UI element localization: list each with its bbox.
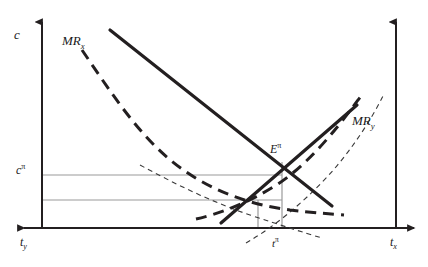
economics-diagram: c cπ ty tx tπ Eπ MRx MRy [0, 0, 428, 267]
t-pi-label: tπ [272, 236, 279, 249]
solid-lines [110, 30, 357, 223]
c-pi-label: cπ [16, 163, 25, 176]
mr-y-base: MR [352, 113, 371, 128]
mr-y-subscript: y [371, 121, 375, 131]
mr-y-solid-line [221, 105, 357, 223]
mr-x-label: MRx [62, 34, 85, 50]
t-pi-superscript: π [275, 235, 279, 244]
t-y-subscript: y [23, 242, 27, 251]
mr-x-subscript: x [81, 41, 85, 51]
mr-y-label: MRy [352, 114, 375, 130]
t-x-subscript: x [393, 242, 397, 251]
mr-x-base: MR [62, 33, 81, 48]
c-pi-superscript: π [21, 162, 25, 171]
equilibrium-superscript: π [277, 141, 281, 150]
t-x-axis-label: tx [390, 236, 397, 252]
mr-x-dashed-curve [82, 50, 344, 215]
thin-dashed-curves [140, 96, 383, 243]
t-y-axis-label: ty [20, 236, 27, 252]
c-axis-label: c [14, 28, 20, 41]
mr-x-solid-line [110, 30, 332, 206]
equilibrium-label: Eπ [270, 142, 281, 155]
reference-lines [42, 162, 282, 228]
